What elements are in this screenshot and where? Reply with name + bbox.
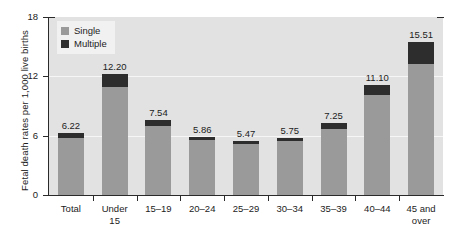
value-label-1: 12.20	[93, 62, 137, 72]
x-tick-8	[399, 196, 400, 201]
bar-segment-multiple-7	[364, 85, 390, 94]
bar-segment-single-1	[102, 87, 128, 195]
x-axis-line	[48, 195, 444, 196]
bar-segment-single-3	[189, 140, 215, 195]
bar-segment-single-6	[321, 129, 347, 195]
bar-segment-single-2	[145, 126, 171, 195]
bar-segment-single-7	[364, 95, 390, 195]
fetal-death-rate-bar-chart: Fetal death rates per 1,000 live births …	[0, 0, 457, 246]
bar-segment-multiple-3	[189, 137, 215, 140]
bar-3	[189, 137, 215, 195]
bar-segment-multiple-5	[277, 138, 303, 141]
bar-segment-single-8	[408, 64, 434, 195]
y-tick-0	[43, 195, 49, 196]
bar-segment-single-5	[277, 141, 303, 195]
value-label-2: 7.54	[136, 108, 180, 118]
x-tick-6	[312, 196, 313, 201]
bar-segment-multiple-2	[145, 120, 171, 126]
value-label-0: 6.22	[49, 121, 93, 131]
legend: Single Multiple	[57, 21, 115, 54]
y-tick-12	[43, 76, 49, 77]
legend-item-multiple: Multiple	[61, 37, 107, 50]
y-tick-label-12: 12	[0, 71, 38, 81]
value-label-6: 7.25	[312, 111, 356, 121]
bar-segment-multiple-8	[408, 42, 434, 65]
bar-8	[408, 42, 434, 195]
x-tick-5	[268, 196, 269, 201]
bar-5	[277, 138, 303, 195]
legend-label-multiple: Multiple	[74, 39, 107, 49]
value-label-5: 5.75	[268, 126, 312, 136]
legend-swatch-multiple-icon	[61, 40, 69, 48]
x-tick-7	[355, 196, 356, 201]
bar-segment-multiple-6	[321, 123, 347, 129]
y-tick-label-18: 18	[0, 12, 38, 22]
bar-1	[102, 74, 128, 195]
x-tick-3	[180, 196, 181, 201]
value-label-8: 15.51	[399, 30, 443, 40]
value-label-4: 5.47	[224, 129, 268, 139]
value-label-7: 11.10	[355, 73, 399, 83]
bar-segment-single-0	[58, 138, 84, 195]
x-tick-1	[93, 196, 94, 201]
bar-6	[321, 123, 347, 195]
bar-segment-single-4	[233, 144, 259, 195]
y-tick-label-6: 6	[0, 131, 38, 141]
legend-label-single: Single	[74, 26, 100, 36]
y-axis-title: Fetal death rates per 1,000 live births	[19, 11, 30, 211]
y-tick-18	[43, 17, 49, 18]
y-tick-label-0: 0	[0, 190, 38, 200]
bar-7	[364, 85, 390, 195]
x-tick-4	[224, 196, 225, 201]
legend-swatch-single-icon	[61, 27, 69, 35]
bar-segment-multiple-1	[102, 74, 128, 86]
y-axis-line	[48, 17, 49, 196]
x-tick-2	[137, 196, 138, 201]
y-tick-6	[43, 136, 49, 137]
bar-0	[58, 133, 84, 195]
plot-top-right-stub	[437, 17, 444, 18]
legend-item-single: Single	[61, 24, 107, 37]
y-axis-top-stub	[48, 17, 55, 18]
value-label-3: 5.86	[180, 125, 224, 135]
bar-2	[145, 120, 171, 195]
bar-4	[233, 141, 259, 195]
category-label-8: 45 and over	[393, 203, 449, 226]
bar-segment-multiple-0	[58, 133, 84, 138]
bar-segment-multiple-4	[233, 141, 259, 144]
